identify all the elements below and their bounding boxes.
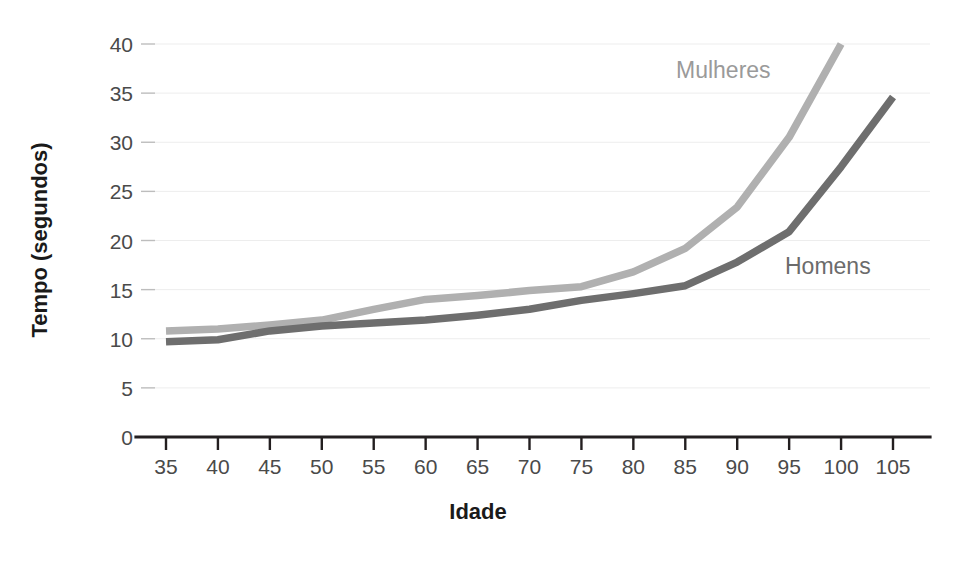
chart-container: 0510152025303540 35404550556065707580859… — [0, 0, 959, 562]
x-axis: 35404550556065707580859095100105 — [136, 437, 930, 478]
x-tick-label: 95 — [777, 455, 800, 478]
x-tick-label: 55 — [362, 455, 385, 478]
x-tick-label: 85 — [674, 455, 697, 478]
series-label-mulheres: Mulheres — [676, 57, 771, 83]
y-axis-ticks: 0510152025303540 — [110, 33, 155, 449]
y-tick-label: 35 — [110, 82, 133, 105]
series-line-mulheres — [166, 44, 841, 331]
x-tick-label: 65 — [466, 455, 489, 478]
x-tick-label: 60 — [414, 455, 437, 478]
series-group — [166, 44, 893, 342]
y-tick-label: 5 — [121, 377, 133, 400]
y-axis-title: Tempo (segundos) — [27, 142, 52, 337]
y-tick-label: 20 — [110, 230, 133, 253]
y-tick-label: 25 — [110, 180, 133, 203]
line-chart: 0510152025303540 35404550556065707580859… — [0, 0, 959, 562]
y-tick-label: 30 — [110, 131, 133, 154]
x-tick-label: 100 — [824, 455, 859, 478]
y-tick-label: 0 — [121, 426, 133, 449]
y-tick-label: 10 — [110, 328, 133, 351]
series-label-homens: Homens — [785, 253, 871, 279]
x-axis-title: Idade — [449, 499, 506, 524]
x-tick-label: 40 — [206, 455, 229, 478]
series-line-homens — [166, 97, 893, 342]
x-tick-label: 50 — [310, 455, 333, 478]
x-tick-label: 45 — [258, 455, 281, 478]
x-tick-label: 105 — [875, 455, 910, 478]
x-tick-label: 80 — [622, 455, 645, 478]
x-tick-label: 35 — [154, 455, 177, 478]
y-tick-label: 15 — [110, 279, 133, 302]
x-tick-label: 75 — [570, 455, 593, 478]
x-tick-label: 70 — [518, 455, 541, 478]
x-tick-label: 90 — [726, 455, 749, 478]
y-tick-label: 40 — [110, 33, 133, 56]
